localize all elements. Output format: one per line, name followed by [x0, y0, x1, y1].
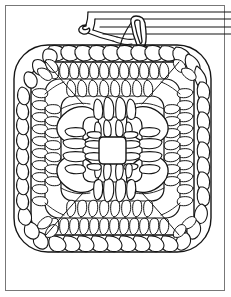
- center-hole: [99, 137, 126, 164]
- caption-area: [12, 258, 219, 286]
- granny-square-artwork: [0, 0, 231, 297]
- granny-square: [14, 45, 211, 252]
- coloring-page: [0, 0, 231, 297]
